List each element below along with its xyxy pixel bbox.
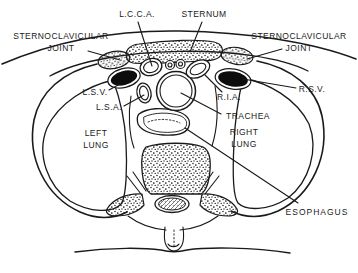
label-lcca: L.C.C.A. bbox=[119, 9, 155, 21]
esophagus-shape bbox=[137, 109, 189, 136]
label-right-lung: RIGHT LUNG bbox=[230, 127, 259, 150]
left-subclavian-artery-shape bbox=[135, 82, 153, 104]
label-esophagus: ESOPHAGUS bbox=[286, 207, 349, 219]
label-sternoclavicular-joint-left: STERNOCLAVICULAR JOINT bbox=[13, 31, 108, 54]
label-lsa: L.S.A. bbox=[96, 102, 122, 114]
label-trachea: TRACHEA bbox=[226, 111, 270, 123]
label-lsv: L.S.V. bbox=[82, 87, 107, 99]
label-sternum: STERNUM bbox=[181, 9, 226, 21]
label-left-lung: LEFT LUNG bbox=[83, 128, 108, 151]
label-ria: R.I.A. bbox=[217, 92, 241, 104]
right-transverse-process bbox=[200, 194, 238, 216]
vertebral-body bbox=[142, 143, 211, 194]
label-sternoclavicular-joint-right: STERNOCLAVICULAR JOINT bbox=[251, 31, 346, 54]
right-clavicle-head bbox=[220, 45, 254, 66]
sternum-shape bbox=[126, 40, 222, 63]
label-rsv: R.S.V. bbox=[299, 84, 325, 96]
skin-bottom-contour bbox=[75, 248, 290, 253]
anatomy-figure: L.C.C.A. STERNUM STERNOCLAVICULAR JOINT … bbox=[0, 0, 358, 273]
